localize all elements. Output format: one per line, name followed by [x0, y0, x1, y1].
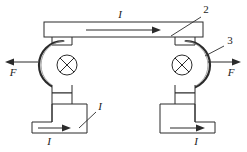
figure-container: I 2 3 F F I I I — [0, 0, 247, 152]
bottom-right-conductor-outline — [160, 93, 215, 133]
label-force-left: F — [9, 66, 17, 78]
bottom-right-stepped-conductor — [160, 85, 215, 133]
label-force-right: F — [227, 66, 235, 78]
bottom-left-tab — [52, 85, 72, 93]
label-current-top: I — [117, 8, 123, 20]
current-into-page-left — [57, 55, 77, 75]
label-callout-2: 2 — [203, 3, 209, 15]
bottom-left-conductor-outline — [32, 93, 87, 133]
bottom-left-stepped-conductor — [32, 85, 87, 133]
label-callout-3: 3 — [227, 34, 233, 46]
force-arrow-left — [5, 59, 38, 66]
top-conductor-assembly — [44, 22, 203, 45]
label-current-bottom-left: I — [46, 135, 52, 147]
label-current-bottom-right: I — [193, 135, 199, 147]
leader-line-3 — [205, 46, 224, 56]
label-current-bottom-left-leader: I — [97, 100, 103, 112]
bottom-right-tab — [175, 85, 195, 93]
current-into-page-right — [172, 55, 192, 75]
right-coil-assembly — [172, 41, 210, 89]
electromagnetic-force-diagram: I 2 3 F F I I I — [0, 0, 247, 152]
force-arrow-right — [208, 59, 241, 66]
left-coil-assembly — [39, 41, 77, 89]
